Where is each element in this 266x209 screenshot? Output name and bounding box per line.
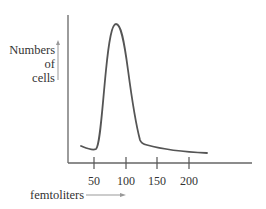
x-tick-label: 200 bbox=[180, 174, 198, 188]
y-axis-label-line: Numbers bbox=[9, 43, 55, 57]
y-axis-label-line: cells bbox=[32, 71, 55, 85]
y-axis-label-line: of bbox=[45, 57, 56, 71]
x-tick-label: 50 bbox=[88, 174, 100, 188]
chart: 50 100 150 200 Numbers of cells femtolit… bbox=[0, 0, 266, 209]
x-axis-label: femtoliters bbox=[30, 188, 84, 202]
y-label-arrow-icon bbox=[56, 40, 60, 80]
x-label-arrow-icon bbox=[86, 193, 126, 197]
x-tick-label: 100 bbox=[117, 174, 135, 188]
distribution-curve bbox=[81, 24, 207, 153]
x-tick-label: 150 bbox=[148, 174, 166, 188]
